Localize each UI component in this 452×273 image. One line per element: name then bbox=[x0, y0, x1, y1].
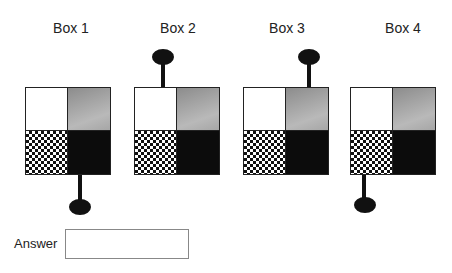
checkerboard-quadrant bbox=[351, 131, 393, 174]
box-1-pin-knob-icon bbox=[69, 199, 91, 215]
answer-input[interactable] bbox=[65, 229, 189, 259]
box-3-title: Box 3 bbox=[242, 20, 332, 36]
gray-quadrant bbox=[286, 88, 328, 131]
box-4-pin-knob-icon bbox=[354, 197, 376, 213]
box-4[interactable] bbox=[350, 87, 436, 175]
white-quadrant bbox=[244, 88, 286, 131]
black-quadrant bbox=[177, 131, 219, 174]
box-1-title: Box 1 bbox=[26, 20, 116, 36]
white-quadrant bbox=[135, 88, 177, 131]
black-quadrant bbox=[68, 131, 110, 174]
box-3[interactable] bbox=[243, 87, 329, 175]
checkerboard-quadrant bbox=[135, 131, 177, 174]
gray-quadrant bbox=[177, 88, 219, 131]
white-quadrant bbox=[26, 88, 68, 131]
box-3-pin-stem bbox=[307, 62, 311, 88]
white-quadrant bbox=[351, 88, 393, 131]
checkerboard-quadrant bbox=[26, 131, 68, 174]
gray-quadrant bbox=[68, 88, 110, 131]
black-quadrant bbox=[393, 131, 435, 174]
black-quadrant bbox=[286, 131, 328, 174]
box-2-title: Box 2 bbox=[133, 20, 223, 36]
box-2[interactable] bbox=[134, 87, 220, 175]
gray-quadrant bbox=[393, 88, 435, 131]
checkerboard-quadrant bbox=[244, 131, 286, 174]
box-1[interactable] bbox=[25, 87, 111, 175]
box-4-title: Box 4 bbox=[358, 20, 448, 36]
answer-label: Answer bbox=[14, 236, 57, 251]
box-2-pin-stem bbox=[161, 62, 165, 88]
